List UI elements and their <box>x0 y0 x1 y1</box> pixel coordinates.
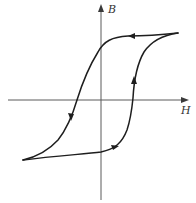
arrow-left-icon <box>128 33 135 39</box>
arrow-down-icon <box>68 113 74 121</box>
hysteresis-diagram <box>0 0 196 203</box>
b-axis-label: B <box>108 3 116 16</box>
h-axis-arrow-icon <box>181 97 189 103</box>
arrow-right-icon <box>111 145 119 150</box>
b-axis-arrow-icon <box>98 4 104 12</box>
h-axis-label: H <box>181 104 191 117</box>
